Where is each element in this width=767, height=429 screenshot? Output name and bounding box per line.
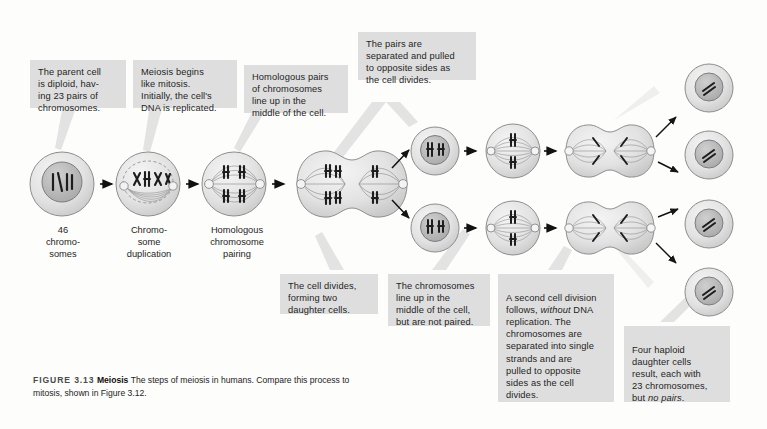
figure-number: FIGURE 3.13	[33, 375, 94, 385]
figure-title: Meiosis	[97, 375, 129, 385]
figure-caption-line2: shown in Figure 3.12.	[65, 388, 147, 398]
meiosis-figure: The parent cell is diploid, hav- ing 23 …	[0, 0, 767, 429]
figure-caption: FIGURE 3.13 Meiosis The steps of meiosis…	[33, 374, 363, 401]
